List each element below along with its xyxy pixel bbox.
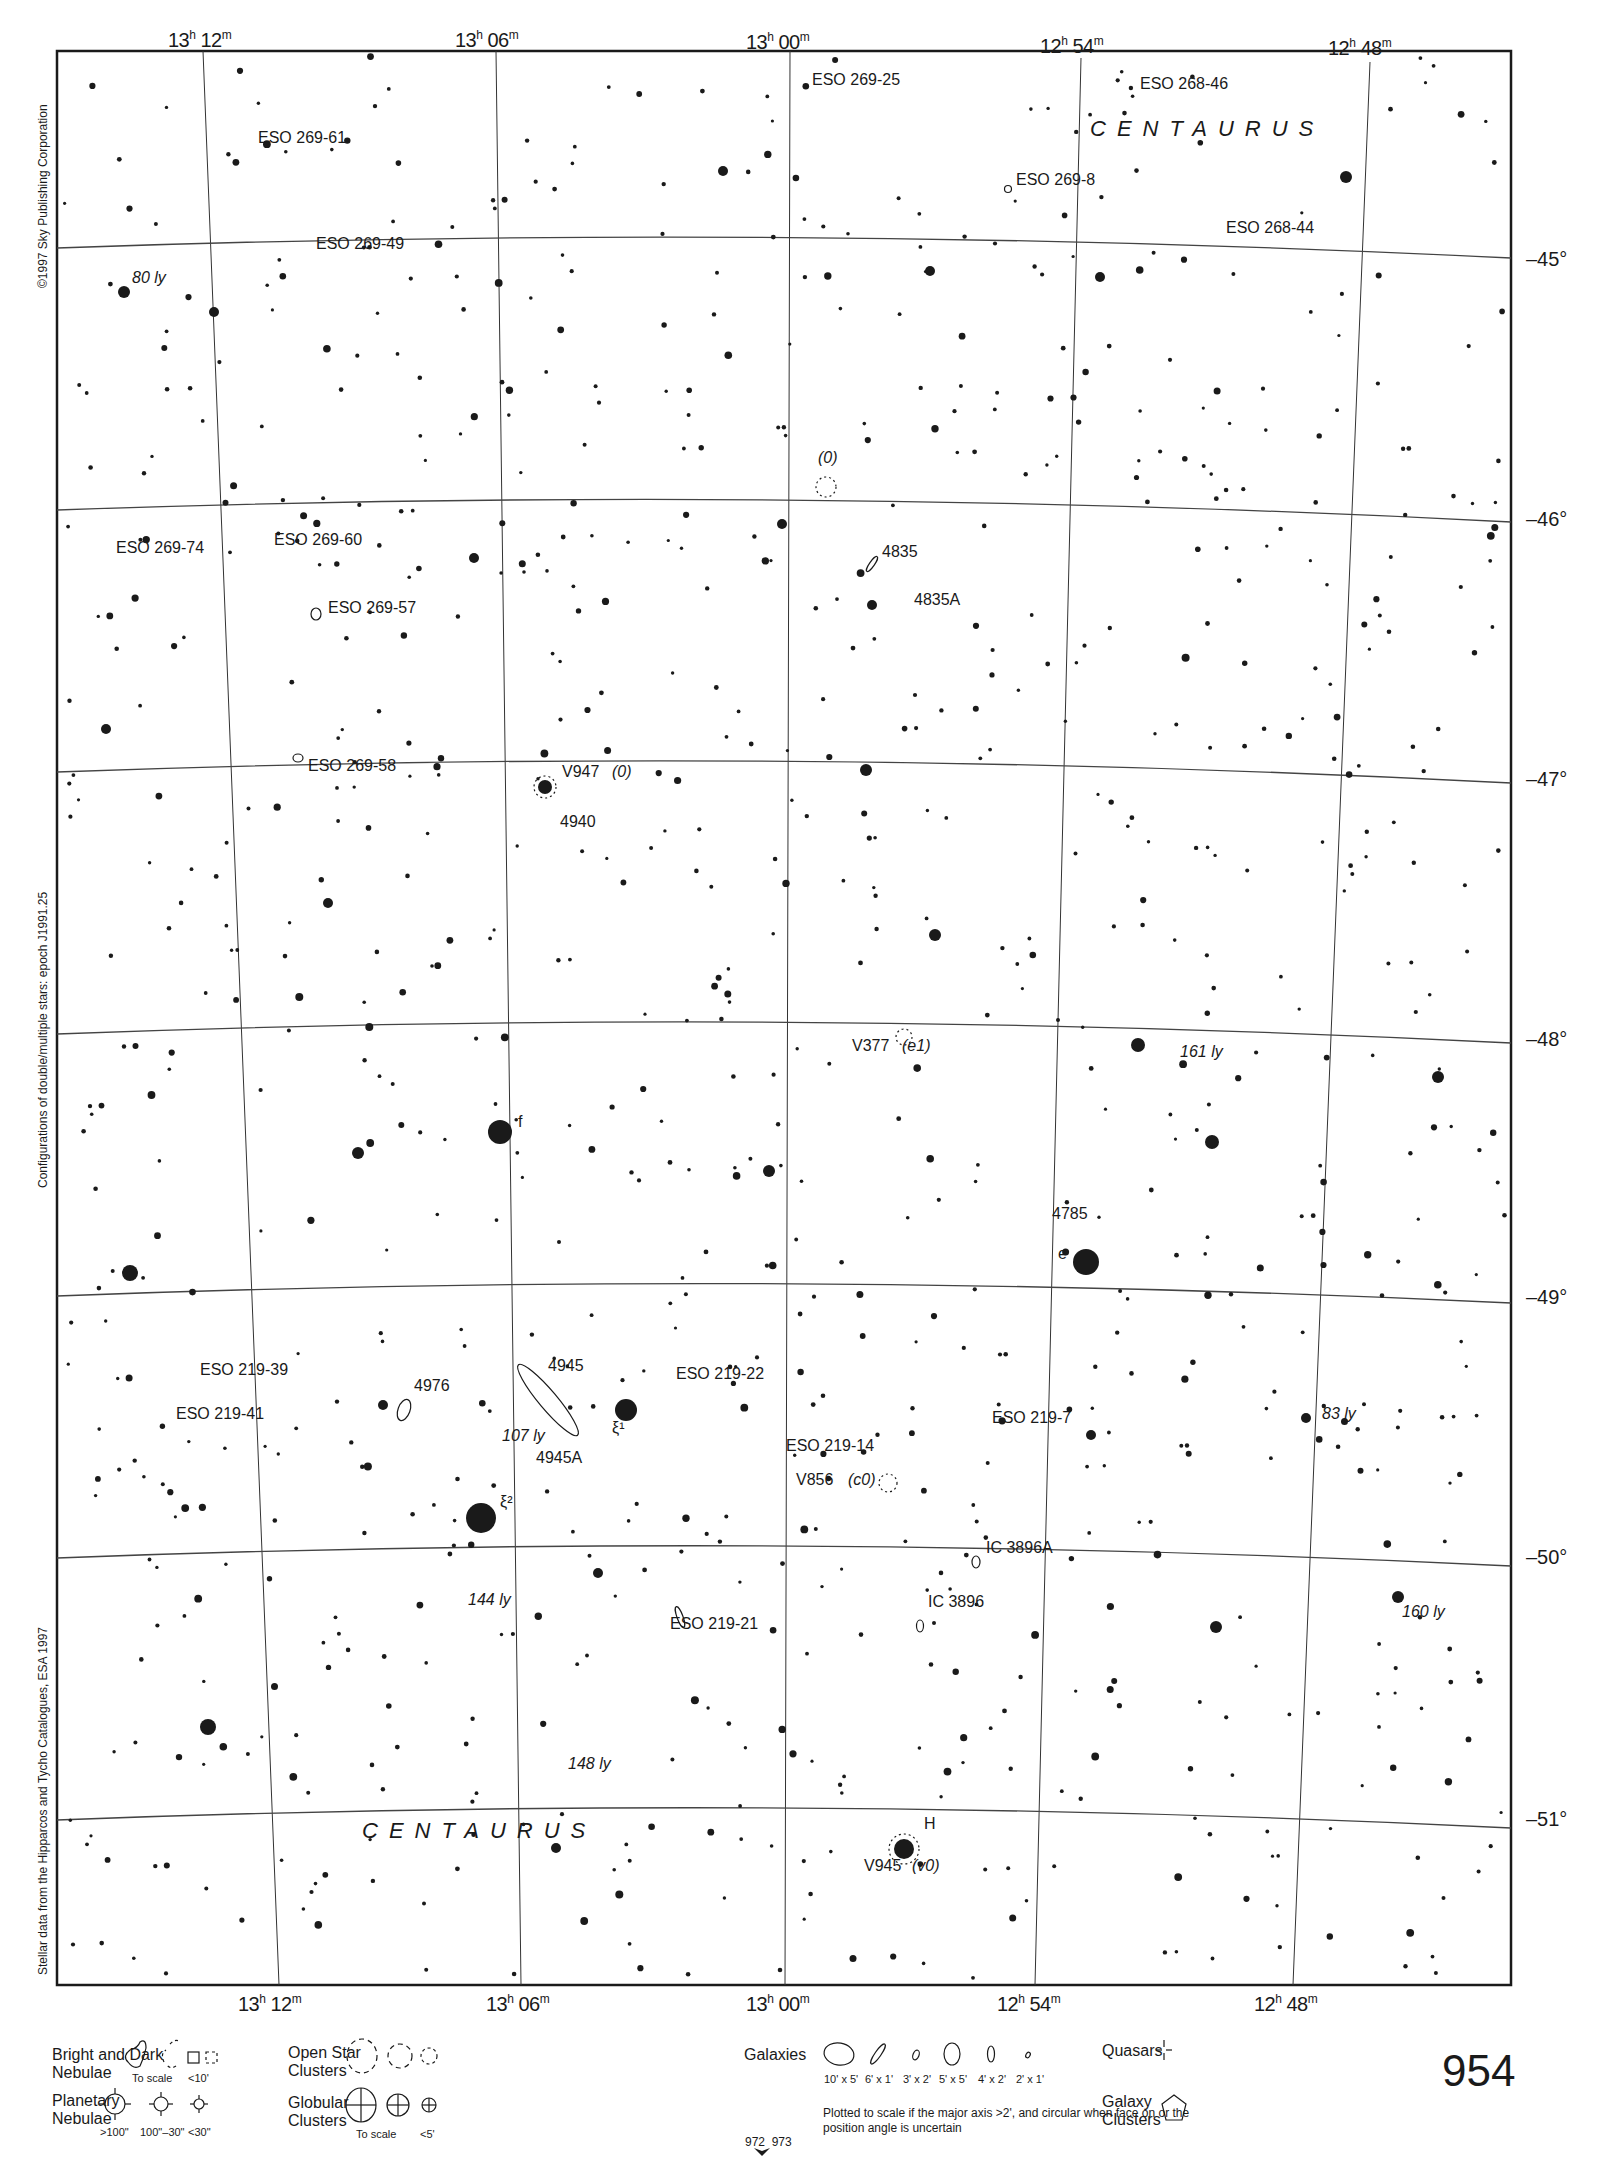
object-label: ESO 219-41 [176, 1406, 264, 1422]
star-icon [1086, 1430, 1096, 1440]
chart-frame [57, 51, 1511, 1985]
legend-quasars-title: Quasars [1102, 2042, 1162, 2060]
open-cluster-icon [816, 477, 836, 497]
dark-nebula-small-icon [206, 2052, 217, 2063]
star-icon [777, 519, 787, 529]
object-label: V377 [852, 1038, 889, 1054]
legend-caption: To scale [356, 2128, 396, 2140]
legend-caption: <5' [420, 2128, 435, 2140]
object-label: ESO 269-8 [1016, 172, 1095, 188]
object-label: IC 3896 [928, 1594, 984, 1610]
dec-label: –46° [1526, 508, 1567, 531]
star-icon [538, 780, 552, 794]
adjacent-pages-link[interactable]: 972 973 [745, 2135, 792, 2149]
object-label: (e1) [902, 1038, 930, 1054]
copyright-text: ©1997 Sky Publishing Corporation [36, 104, 50, 288]
galaxy-4x2-icon [988, 2046, 995, 2062]
planetary-nebula-medium-icon [149, 2092, 173, 2116]
legend-caption: 4' x 2' [978, 2073, 1006, 2085]
object-label: 144 ly [468, 1592, 511, 1608]
star-icon [1392, 1591, 1404, 1603]
ra-gridlines [203, 51, 1370, 1985]
legend-caption: 3' x 2' [903, 2073, 931, 2085]
star-icon [1340, 171, 1352, 183]
object-label: 4945 [548, 1358, 584, 1374]
legend-caption: 10' x 5' [824, 2073, 858, 2085]
legend-galaxy-clusters-title: Galaxy Clusters [1102, 2093, 1161, 2129]
globular-cluster-medium-icon [387, 2094, 409, 2116]
object-label: V945 [864, 1858, 901, 1874]
object-label: 148 ly [568, 1756, 611, 1772]
star-icon [488, 1120, 512, 1144]
legend-caption: >100" [100, 2126, 129, 2138]
star-icon [209, 307, 219, 317]
galaxy-ic3896-icon [917, 1620, 924, 1632]
object-label: H [924, 1816, 936, 1832]
ra-label: 12h 48m [1254, 1992, 1317, 2016]
star-icon [925, 266, 935, 276]
object-label: ESO 269-57 [328, 600, 416, 616]
object-label: ESO 269-49 [316, 236, 404, 252]
ra-label: 13h 06m [455, 28, 518, 52]
open-cluster-medium-icon [388, 2044, 412, 2068]
star-icon [469, 553, 479, 563]
object-label: (0) [818, 450, 838, 466]
object-label: ESO 269-61 [258, 130, 346, 146]
object-label: 107 ly [502, 1428, 545, 1444]
star-icon [615, 1399, 637, 1421]
object-label: 80 ly [132, 270, 166, 286]
object-label: ESO 219-7 [992, 1410, 1071, 1426]
object-label: 4945A [536, 1450, 582, 1466]
object-label: (c0) [848, 1472, 876, 1488]
page-number: 954 [1442, 2046, 1515, 2096]
ra-label: 13h 12m [238, 1992, 301, 2016]
galaxy-eso269-57-icon [311, 608, 321, 620]
legend-caption: <10' [188, 2072, 209, 2084]
object-label: ESO 219-39 [200, 1362, 288, 1378]
adjacent-page-arrow-icon[interactable] [754, 2148, 770, 2156]
object-label: 160 ly [1402, 1604, 1445, 1620]
object-label: f [518, 1114, 522, 1130]
star-icon [466, 1503, 496, 1533]
galaxy-ngc4835-icon [865, 555, 879, 573]
nebula-small-icon [188, 2052, 199, 2063]
galaxy-10x5-icon [822, 2041, 855, 2068]
legend-globular-title: Globular Clusters [288, 2094, 348, 2130]
object-label: ξ¹ [612, 1420, 625, 1436]
object-label: 4835 [882, 544, 918, 560]
object-label: ESO 269-74 [116, 540, 204, 556]
ra-label: 13h 00m [746, 30, 809, 54]
bright-stars [101, 166, 1444, 1859]
star-icon [1073, 1249, 1099, 1275]
constellation-label: CENTAURUS [362, 1818, 596, 1844]
ra-label: 12h 48m [1328, 36, 1391, 60]
dec-label: –51° [1526, 1808, 1567, 1831]
star-icon [867, 600, 877, 610]
dec-label: –45° [1526, 248, 1567, 271]
object-label: IC 3896A [986, 1540, 1053, 1556]
star-icon [1301, 1413, 1311, 1423]
ra-label: 13h 00m [746, 1992, 809, 2016]
object-label: ESO 269-25 [812, 72, 900, 88]
star-icon [1432, 1071, 1444, 1083]
object-label: 83 ly [1322, 1406, 1356, 1422]
galaxy-3x2-icon [911, 2049, 920, 2060]
object-label: ESO 219-14 [786, 1438, 874, 1454]
object-label: V947 [562, 764, 599, 780]
object-label: 4976 [414, 1378, 450, 1394]
legend-planetary-title: Planetary Nebulae [52, 2092, 120, 2128]
object-label: 4785 [1052, 1206, 1088, 1222]
star-icon [593, 1568, 603, 1578]
legend-caption: <30" [188, 2126, 211, 2138]
object-label: V856 [796, 1472, 833, 1488]
ra-label: 13h 06m [486, 1992, 549, 2016]
faint-stars [63, 53, 1507, 1980]
star-icon [118, 286, 130, 298]
star-icon [1131, 1038, 1145, 1052]
globular-cluster-large-icon [346, 2088, 376, 2122]
star-icon [551, 1843, 561, 1853]
star-chart-canvas [0, 0, 1604, 2163]
star-icon [378, 1400, 388, 1410]
object-label: e [1058, 1246, 1067, 1262]
dec-gridlines [57, 237, 1511, 1828]
